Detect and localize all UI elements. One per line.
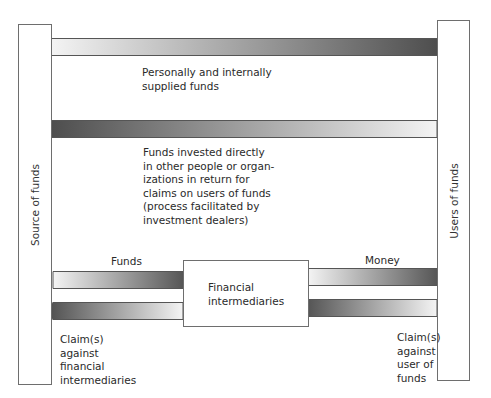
arrow-claims-intermediaries — [44, 302, 184, 320]
source-of-funds-label: Source of funds — [29, 163, 41, 245]
claims-intermediaries-label: Claim(s) against financial intermediarie… — [60, 333, 136, 387]
arrow-direct-investment — [43, 120, 438, 138]
claims-users-label: Claim(s) against user of funds — [397, 331, 441, 385]
intermediaries-label-line2: intermediaries — [208, 295, 284, 309]
users-of-funds-box: Users of funds — [437, 20, 470, 381]
right-arrow-icon — [51, 38, 447, 56]
direct-investment-label: Funds invested directly in other people … — [143, 146, 274, 227]
left-arrow-icon — [299, 299, 438, 317]
left-arrow-icon — [44, 302, 184, 320]
arrow-personal-funds — [51, 38, 447, 56]
arrow-funds — [53, 271, 195, 289]
source-of-funds-box: Source of funds — [18, 24, 52, 385]
right-arrow-icon — [308, 268, 449, 286]
financial-intermediaries-box: Financial intermediaries — [183, 260, 309, 327]
users-of-funds-label: Users of funds — [448, 163, 460, 238]
arrow-money — [308, 268, 449, 286]
money-label: Money — [365, 254, 400, 268]
personal-funds-label: Personally and internally supplied funds — [142, 66, 272, 93]
right-arrow-icon — [53, 271, 195, 289]
intermediaries-label-line1: Financial — [208, 281, 284, 295]
left-arrow-icon — [43, 120, 438, 138]
arrow-claims-users — [299, 299, 438, 317]
funds-label: Funds — [111, 255, 142, 269]
